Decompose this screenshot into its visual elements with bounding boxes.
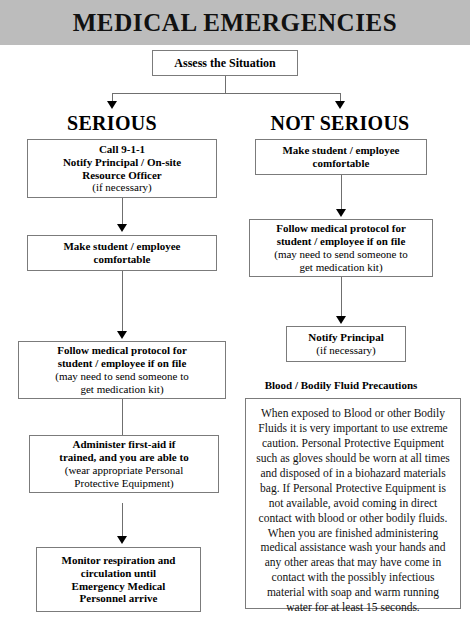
arrowhead-l4-l5	[117, 536, 127, 544]
flow-node-line: Call 9-1-1	[99, 143, 145, 156]
flow-node-line: (may need to send someone to	[55, 370, 189, 383]
flow-node-serious-make-comfortable[interactable]: Make student / employee comfortable	[27, 235, 217, 271]
flow-node-serious-monitor-respiration[interactable]: Monitor respiration and circulation unti…	[36, 547, 201, 612]
flow-node-line: Monitor respiration and	[62, 554, 176, 567]
flow-node-line: trained, and you are able to	[59, 451, 188, 464]
flow-node-serious-administer-first-aid[interactable]: Administer first-aid if trained, and you…	[29, 435, 219, 493]
title-banner: MEDICAL EMERGENCIES	[0, 0, 470, 45]
precautions-panel: When exposed to Blood or other Bodily Fl…	[245, 398, 461, 609]
connector-l1-l2	[122, 198, 123, 226]
arrowhead-r1-r2	[336, 209, 346, 217]
flow-node-line: Make student / employee	[63, 240, 180, 253]
precautions-body-text: When exposed to Blood or other Bodily Fl…	[256, 407, 450, 613]
flow-node-not-serious-notify-principal[interactable]: Notify Principal (if necessary)	[286, 326, 406, 362]
flow-node-line: comfortable	[94, 253, 151, 266]
flow-node-assess-situation[interactable]: Assess the Situation	[152, 50, 298, 76]
arrowhead-r2-r3	[336, 316, 346, 324]
flow-node-line: Notify Principal / On-site	[63, 156, 181, 169]
arrowhead-l1-l2	[117, 224, 127, 232]
flow-node-line: Follow medical protocol for	[276, 222, 406, 235]
flow-node-line: get medication kit)	[299, 261, 382, 274]
connector-l3-l4	[122, 399, 123, 435]
precautions-heading: Blood / Bodily Fluid Precautions	[249, 379, 433, 391]
connector-start-stem	[225, 76, 226, 93]
flow-node-line: comfortable	[313, 157, 370, 170]
flow-node-line: (if necessary)	[92, 181, 152, 194]
branch-heading-serious: SERIOUS	[0, 112, 224, 135]
flow-node-line: get medication kit)	[80, 383, 163, 396]
flow-node-line: circulation until	[81, 567, 156, 580]
flow-node-line: (wear appropriate Personal	[65, 464, 184, 477]
flow-node-not-serious-make-comfortable[interactable]: Make student / employee comfortable	[255, 139, 427, 175]
flow-node-line: (may need to send someone to	[274, 248, 408, 261]
flow-node-line: student / employee if on file	[58, 357, 187, 370]
flow-node-line: Emergency Medical	[72, 580, 166, 593]
branch-heading-not-serious: NOT SERIOUS	[240, 112, 440, 135]
connector-l2-l3	[122, 271, 123, 336]
flow-node-line: Notify Principal	[308, 331, 383, 344]
connector-split-horizontal	[112, 93, 341, 94]
flow-node-line: (if necessary)	[316, 344, 376, 357]
flow-node-line: student / employee if on file	[277, 235, 406, 248]
flow-node-line: Make student / employee	[282, 144, 399, 157]
flow-node-serious-follow-protocol[interactable]: Follow medical protocol for student / em…	[18, 341, 226, 399]
arrowhead-l2-l3	[117, 331, 127, 339]
flow-node-label: Assess the Situation	[174, 56, 275, 70]
flow-node-line: Follow medical protocol for	[57, 344, 187, 357]
flow-node-line: Resource Officer	[82, 169, 162, 182]
arrowhead-to-not-serious	[335, 101, 345, 109]
flow-node-line: Protective Equipment)	[74, 477, 173, 490]
flow-node-line: Administer first-aid if	[72, 438, 175, 451]
arrowhead-to-serious	[107, 101, 117, 109]
flow-node-not-serious-follow-protocol[interactable]: Follow medical protocol for student / em…	[249, 219, 433, 277]
flow-node-line: Personnel arrive	[80, 592, 158, 605]
flow-node-serious-call-911[interactable]: Call 9-1-1 Notify Principal / On-site Re…	[27, 139, 217, 198]
page-title: MEDICAL EMERGENCIES	[73, 9, 398, 37]
